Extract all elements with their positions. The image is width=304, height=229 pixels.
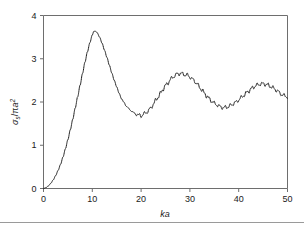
x-tick-label: 0 <box>41 194 46 204</box>
x-axis-title: ka <box>160 209 170 219</box>
y-axis-a-superscript: 2 <box>9 99 16 104</box>
figure-container: 01234 01020304050 σs/πa2 ka <box>0 0 304 229</box>
y-tick-label: 0 <box>31 184 36 194</box>
x-tick-label: 40 <box>234 194 244 204</box>
x-tick-label: 50 <box>282 194 292 204</box>
x-tick-label: 10 <box>87 194 97 204</box>
y-tick-label: 2 <box>31 97 36 107</box>
x-tick-label: 20 <box>136 194 146 204</box>
x-tick-label: 30 <box>185 194 195 204</box>
y-tick-label: 4 <box>31 11 36 21</box>
scattering-cross-section-chart: 01234 01020304050 σs/πa2 ka <box>0 0 304 229</box>
x-axis-title-label: ka <box>160 209 170 219</box>
y-tick-label: 3 <box>31 54 36 64</box>
y-tick-label: 1 <box>31 140 36 150</box>
